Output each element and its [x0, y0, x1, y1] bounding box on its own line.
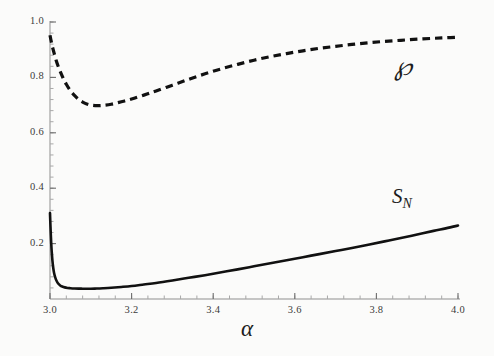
x-axis-tick-label: 3.2: [114, 304, 150, 315]
series-label-sn-subscript: N: [403, 196, 412, 211]
x-axis-tick-label: 3.8: [358, 304, 394, 315]
x-axis-tick-label: 3.0: [32, 304, 68, 315]
x-axis-tick-label: 3.4: [195, 304, 231, 315]
series-label-sn-base: S: [392, 184, 403, 208]
y-axis-tick-label: 0.2: [10, 237, 44, 248]
series-line-sn: [50, 213, 458, 289]
chart-figure: 0.20.40.60.81.0 3.03.23.43.63.84.0 ℘ SN …: [0, 0, 494, 356]
series-label-sn: SN: [392, 186, 412, 211]
y-axis-tick-label: 0.6: [10, 126, 44, 137]
y-axis-tick-label: 0.8: [10, 70, 44, 81]
plot-canvas: [0, 0, 494, 356]
series-label-weierstrass-p: ℘: [394, 54, 412, 80]
y-axis-tick-label: 0.4: [10, 181, 44, 192]
x-axis-title: α: [0, 316, 494, 342]
y-axis-tick-label: 1.0: [10, 15, 44, 26]
x-axis-tick-label: 3.6: [277, 304, 313, 315]
x-axis-tick-label: 4.0: [440, 304, 476, 315]
